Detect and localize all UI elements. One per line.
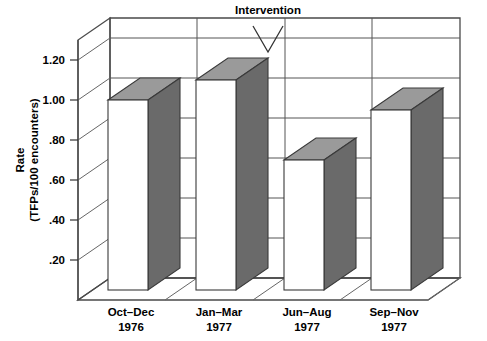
x-label-4-line1: Sep–Nov — [369, 306, 419, 318]
bar-3-front-face — [284, 160, 324, 290]
x-label-1-line1: Oct–Dec — [108, 306, 155, 318]
x-label-3-line1: Jun–Aug — [282, 306, 331, 318]
bar-group-4[interactable] — [371, 88, 443, 290]
bar-3-side-face — [324, 138, 356, 290]
bar-1-front-face — [108, 100, 148, 290]
bar-chart: 1.20 1.00 .80 .60 .40 .20 Rate (TFPs/100… — [0, 0, 487, 341]
bar-4-side-face — [411, 88, 443, 290]
x-label-1-line2: 1976 — [118, 321, 144, 333]
bar-4-front-face — [371, 110, 411, 290]
bar-2-side-face — [236, 58, 268, 290]
bar-2-front-face — [196, 80, 236, 290]
x-label-4-line2: 1977 — [381, 321, 407, 333]
x-label-2-line1: Jan–Mar — [196, 306, 243, 318]
y-tick-label-0-60: .60 — [49, 174, 65, 186]
y-tick-label-1-00: 1.00 — [43, 94, 65, 106]
y-axis-title-line2: (TFPs/100 encounters) — [28, 98, 40, 222]
figure-root: 1.20 1.00 .80 .60 .40 .20 Rate (TFPs/100… — [0, 0, 487, 341]
y-tick-label-0-40: .40 — [49, 214, 65, 226]
x-label-3-line2: 1977 — [294, 321, 320, 333]
y-tick-label-1-20: 1.20 — [43, 54, 65, 66]
x-label-2-line2: 1977 — [206, 321, 232, 333]
y-tick-label-0-80: .80 — [49, 134, 65, 146]
bar-group-2[interactable] — [196, 58, 268, 290]
intervention-label: Intervention — [235, 4, 301, 16]
y-tick-label-0-20: .20 — [49, 254, 65, 266]
bar-group-3[interactable] — [284, 138, 356, 290]
y-axis-title-line1: Rate — [14, 148, 26, 173]
bar-group-1[interactable] — [108, 78, 180, 290]
bar-1-side-face — [148, 78, 180, 290]
